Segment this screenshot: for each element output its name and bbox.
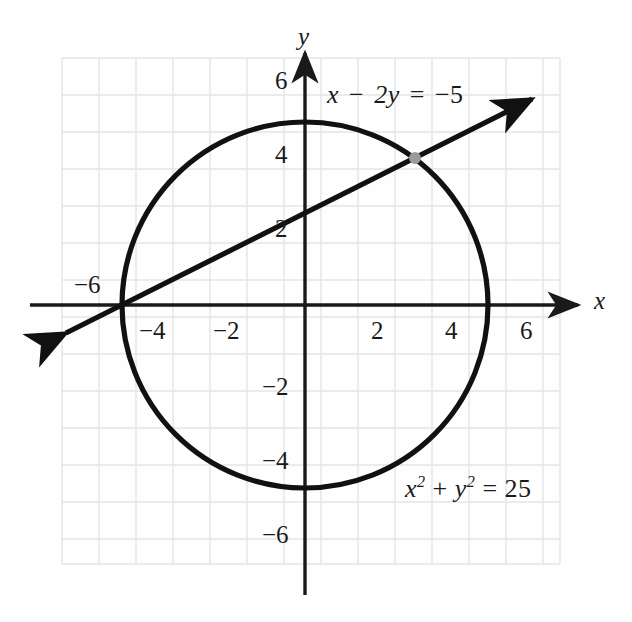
x-tick-label--6: −6 — [74, 272, 101, 297]
circle-eq-plus: + — [433, 474, 448, 503]
y-tick-label-2: 2 — [275, 216, 288, 241]
x-tick-label--2: −2 — [213, 318, 240, 343]
line-eq-lhs-x: x — [327, 80, 339, 109]
line-eq-minus: − — [349, 80, 364, 109]
y-tick-label-4: 4 — [275, 142, 288, 167]
plot-canvas — [0, 0, 632, 622]
x-tick-label-4: 4 — [445, 318, 458, 343]
circle-eq-x-base: x — [405, 474, 417, 503]
y-tick-label--2: −2 — [262, 374, 289, 399]
y-tick-label--6: −6 — [262, 522, 289, 547]
line-eq-coef-y: 2y — [374, 80, 400, 109]
graph-figure: −6 −4 −2 2 4 6 6 4 2 −2 −4 −6 x y x−2y=−… — [0, 0, 632, 622]
y-tick-label--4: −4 — [262, 448, 289, 473]
line-equation-label: x−2y=−5 — [327, 82, 464, 108]
line-eq-rhs: −5 — [435, 80, 464, 109]
x-axis-name-label: x — [594, 288, 605, 313]
x-tick-label-6: 6 — [520, 318, 533, 343]
y-tick-label-6: 6 — [275, 68, 288, 93]
x-tick-label-2: 2 — [371, 318, 384, 343]
circle-eq-x-exponent: 2 — [417, 473, 426, 490]
coordinate-axes — [30, 53, 578, 595]
x-tick-label--4: −4 — [139, 318, 166, 343]
circle-eq-y-base: y — [455, 474, 467, 503]
y-axis-name-label: y — [298, 24, 309, 49]
circle-eq-equals: = — [482, 474, 497, 503]
intersection-point-marker — [409, 152, 421, 164]
line-eq-equals: = — [410, 80, 425, 109]
circle-eq-rhs: 25 — [505, 474, 532, 503]
circle-equation-label: x2+y2=25 — [405, 476, 532, 502]
circle-eq-y-exponent: 2 — [467, 473, 476, 490]
